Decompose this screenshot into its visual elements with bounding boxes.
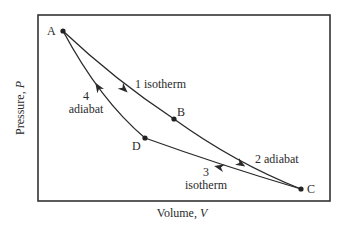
y-axis-label: Pressure, P [13,80,27,135]
process-4-number: 4 [83,89,89,103]
process-2-label: 2 adiabat [255,152,299,166]
process-3-number: 3 [203,165,209,179]
point-c-dot [298,186,303,191]
point-d-label: D [132,139,141,153]
process-3-label: isotherm [185,178,228,192]
point-c-label: C [307,182,315,196]
point-a-label: A [47,24,56,38]
process-4-adiabat-curve [63,31,145,138]
process-4-label: adiabat [69,102,104,116]
point-b-dot [171,116,176,121]
pv-diagram: A B C D 1 isotherm 2 adiabat 3 isotherm … [0,0,346,227]
point-d-dot [142,135,147,140]
point-a-dot [60,28,65,33]
process-1-label: 1 isotherm [135,77,187,91]
x-axis-label: Volume, V [157,206,209,220]
point-b-label: B [177,105,185,119]
arrow-process-1-icon [112,78,124,89]
